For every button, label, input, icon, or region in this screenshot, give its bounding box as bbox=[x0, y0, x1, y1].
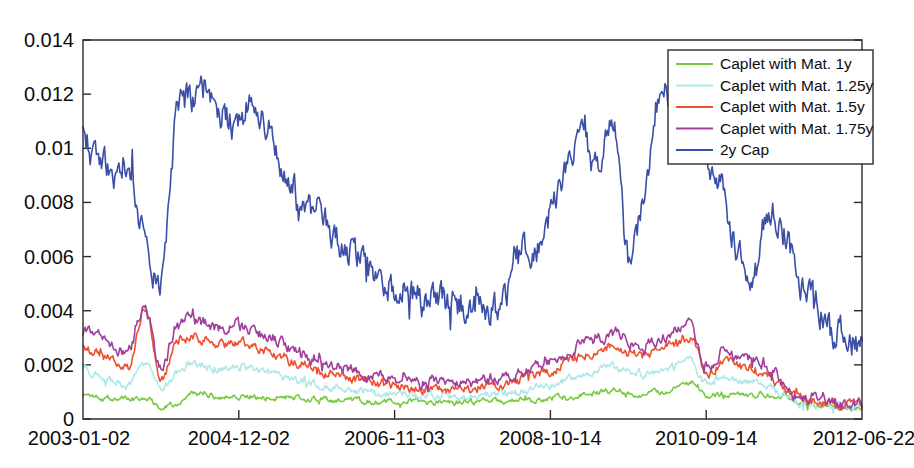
legend-label: Caplet with Mat. 1y bbox=[720, 55, 852, 72]
y-tick-label: 0.01 bbox=[35, 137, 74, 159]
y-tick-label: 0.008 bbox=[24, 191, 74, 213]
y-tick-label: 0.002 bbox=[24, 354, 74, 376]
x-tick-label: 2008-10-14 bbox=[499, 427, 601, 449]
y-tick-label: 0.012 bbox=[24, 83, 74, 105]
legend-label: 2y Cap bbox=[720, 141, 769, 158]
chart-legend: Caplet with Mat. 1yCaplet with Mat. 1.25… bbox=[668, 50, 874, 164]
x-tick-label: 2004-12-02 bbox=[188, 427, 290, 449]
y-tick-label: 0.006 bbox=[24, 246, 74, 268]
x-tick-label: 2010-09-14 bbox=[655, 427, 757, 449]
x-tick-label: 2012-06-22 bbox=[813, 427, 914, 449]
x-tick-label: 2003-01-02 bbox=[28, 427, 130, 449]
time-series-chart: 0.0140.0120.010.0080.0060.0040.0020 2003… bbox=[0, 0, 914, 468]
x-tick-label: 2006-11-03 bbox=[344, 427, 445, 449]
legend-label: Caplet with Mat. 1.75y bbox=[720, 120, 874, 137]
legend-label: Caplet with Mat. 1.25y bbox=[720, 77, 874, 94]
legend-label: Caplet with Mat. 1.5y bbox=[720, 98, 865, 115]
y-tick-label: 0.004 bbox=[24, 300, 74, 322]
y-tick-label: 0.014 bbox=[24, 29, 74, 51]
chart-container: 0.0140.0120.010.0080.0060.0040.0020 2003… bbox=[0, 0, 914, 468]
x-axis-ticks: 2003-01-022004-12-022006-11-032008-10-14… bbox=[28, 410, 914, 449]
